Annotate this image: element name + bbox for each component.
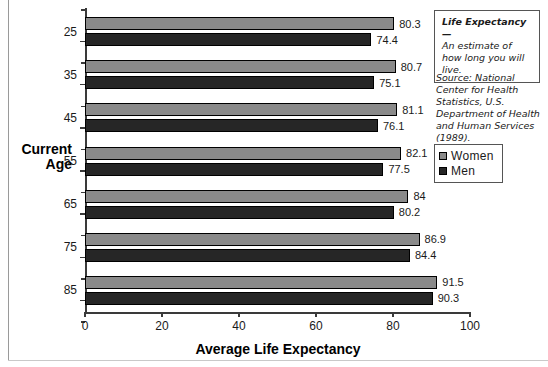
bar-women-age-65	[85, 190, 408, 203]
value-label-men-age-85: 90.3	[438, 293, 459, 304]
x-axis-label-0: 0	[65, 320, 105, 332]
x-tick-80	[392, 312, 394, 317]
y-axis-label-75: 75	[37, 241, 77, 253]
legend-swatch-women-icon	[439, 152, 447, 160]
callout-body: An estimate of how long you will live.	[442, 40, 533, 76]
y-axis-label-55: 55	[37, 155, 77, 167]
y-axis-label-35: 35	[37, 69, 77, 81]
legend-label-women: Women	[451, 150, 494, 162]
legend: WomenMen	[434, 144, 503, 183]
y-axis-label-45: 45	[37, 112, 77, 124]
bar-men-age-25	[85, 33, 371, 46]
value-label-women-age-75: 86.9	[425, 234, 446, 245]
x-axis-line	[85, 312, 471, 314]
y-tick-minor-top	[81, 9, 85, 11]
frame-left-border	[8, 0, 9, 360]
x-axis-label-80: 80	[373, 320, 413, 332]
chart-page: Current Age Average Life Expectancy Life…	[0, 0, 548, 367]
bar-men-age-55	[85, 163, 383, 176]
bar-women-age-75	[85, 233, 420, 246]
bar-women-age-85	[85, 276, 437, 289]
value-label-men-age-35: 75.1	[379, 78, 400, 89]
plot-area	[85, 10, 470, 312]
y-axis-label-25: 25	[37, 26, 77, 38]
x-axis-label-60: 60	[296, 320, 336, 332]
bar-men-age-65	[85, 206, 394, 219]
x-tick-100	[469, 312, 471, 317]
bar-men-age-85	[85, 292, 433, 305]
x-axis-label-100: 100	[450, 320, 490, 332]
value-label-men-age-25: 74.4	[376, 35, 397, 46]
x-tick-0	[84, 312, 86, 317]
y-axis-label-65: 65	[37, 198, 77, 210]
bar-men-age-35	[85, 76, 374, 89]
value-label-women-age-55: 82.1	[406, 148, 427, 159]
bar-women-age-45	[85, 103, 397, 116]
x-tick-40	[238, 312, 240, 317]
bar-men-age-75	[85, 249, 410, 262]
callout-title: Life Expectancy—	[442, 16, 533, 40]
source-note: Source: National Center for Health Stati…	[436, 72, 548, 144]
value-label-women-age-85: 91.5	[442, 277, 463, 288]
value-label-women-age-45: 81.1	[402, 105, 423, 116]
value-label-women-age-25: 80.3	[399, 19, 420, 30]
legend-item-women: Women	[439, 148, 494, 163]
x-tick-60	[315, 312, 317, 317]
bar-women-age-35	[85, 60, 396, 73]
bar-women-age-25	[85, 17, 394, 30]
x-axis-title: Average Life Expectancy	[85, 341, 471, 357]
value-label-men-age-45: 76.1	[383, 121, 404, 132]
legend-label-men: Men	[451, 165, 475, 177]
value-label-women-age-35: 80.7	[401, 62, 422, 73]
legend-swatch-men-icon	[439, 167, 447, 175]
legend-item-men: Men	[439, 163, 494, 178]
bar-women-age-55	[85, 147, 401, 160]
value-label-men-age-75: 84.4	[415, 250, 436, 261]
value-label-women-age-65: 84	[413, 191, 425, 202]
y-axis-label-85: 85	[37, 284, 77, 296]
x-tick-20	[161, 312, 163, 317]
bar-men-age-45	[85, 119, 378, 132]
frame-bottom-border	[8, 360, 548, 361]
value-label-men-age-65: 80.2	[399, 207, 420, 218]
value-label-men-age-55: 77.5	[388, 164, 409, 175]
x-axis-label-20: 20	[142, 320, 182, 332]
x-axis-label-40: 40	[219, 320, 259, 332]
